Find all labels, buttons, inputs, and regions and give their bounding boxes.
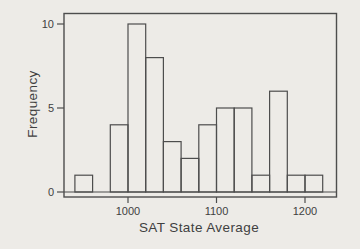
histogram-plot-canvas: 1000110012000510 (0, 0, 360, 249)
histogram-bar (199, 125, 217, 192)
y-tick-label: 0 (48, 186, 54, 198)
histogram-bar (75, 175, 93, 192)
histogram-bar (252, 175, 270, 192)
histogram-bar (234, 108, 252, 192)
x-tick-label: 1000 (116, 205, 140, 217)
y-tick-label: 5 (48, 102, 54, 114)
x-tick-label: 1200 (293, 205, 317, 217)
histogram-bar (181, 158, 199, 192)
histogram-bar (305, 175, 323, 192)
histogram-bar (163, 142, 181, 192)
histogram-bar (146, 58, 164, 192)
histogram-bar (270, 91, 288, 192)
histogram-bar (110, 125, 128, 192)
histogram-bar (128, 24, 146, 192)
histogram-figure: 1000110012000510 Frequency SAT State Ave… (0, 0, 360, 249)
y-tick-label: 10 (42, 18, 54, 30)
histogram-bar (217, 108, 235, 192)
histogram-bar (287, 175, 305, 192)
plot-frame (64, 14, 337, 198)
x-tick-label: 1100 (205, 205, 229, 217)
